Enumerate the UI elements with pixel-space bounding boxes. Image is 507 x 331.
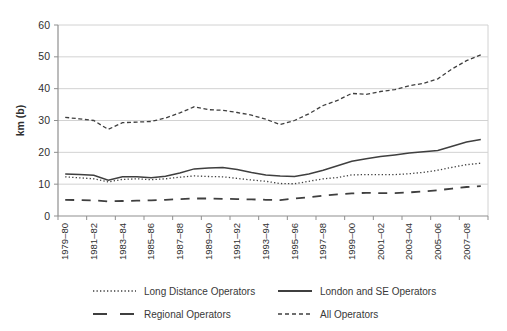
x-tick-label: 2003–04 <box>403 223 414 260</box>
x-tick-label: 1981–82 <box>88 223 99 260</box>
x-tick-label: 1985–86 <box>145 223 156 260</box>
legend-label-long-distance-operators: Long Distance Operators <box>144 286 255 297</box>
series-line-all-operators <box>65 55 481 129</box>
legend-marker-dotted-line-icon <box>92 287 137 295</box>
plot-svg: 01020304050601979–801981–821983–841985–8… <box>0 0 507 280</box>
y-tick-label: 50 <box>38 50 50 62</box>
x-tick-label: 1997–98 <box>317 223 328 260</box>
y-tick-label: 60 <box>38 19 50 31</box>
x-tick-label: 1993–94 <box>260 223 271 260</box>
legend-marker-long-dash-line-icon <box>92 310 137 318</box>
chart-legend: Long Distance OperatorsLondon and SE Ope… <box>0 280 507 330</box>
legend-row: Long Distance OperatorsLondon and SE Ope… <box>0 284 507 298</box>
legend-item-regional-operators: Regional Operators <box>92 307 231 321</box>
legend-row: Regional OperatorsAll Operators <box>0 307 507 321</box>
series-line-london-and-se-operators <box>65 140 481 181</box>
passenger-km-line-chart: 01020304050601979–801981–821983–841985–8… <box>0 0 507 331</box>
x-tick-label: 1987–88 <box>174 223 185 260</box>
y-tick-label: 30 <box>38 114 50 126</box>
x-tick-label: 1979–80 <box>59 223 70 260</box>
legend-label-london-and-se-operators: London and SE Operators <box>320 286 436 297</box>
y-axis-title: km (b) <box>14 105 26 137</box>
x-tick-label: 2001–02 <box>375 223 386 260</box>
legend-item-london-and-se-operators: London and SE Operators <box>277 284 436 298</box>
y-tick-label: 40 <box>38 82 50 94</box>
series-line-long-distance-operators <box>65 163 481 184</box>
x-tick-label: 1991–92 <box>231 223 242 260</box>
x-tick-label: 1999–00 <box>346 223 357 260</box>
legend-marker-solid-line-icon <box>277 287 313 295</box>
x-tick-label: 2007–08 <box>461 223 472 260</box>
legend-marker-short-dash-line-icon <box>277 310 313 318</box>
legend-item-long-distance-operators: Long Distance Operators <box>92 284 255 298</box>
series-line-regional-operators <box>65 186 481 201</box>
y-tick-label: 0 <box>44 210 50 222</box>
y-tick-label: 10 <box>38 178 50 190</box>
x-tick-label: 1989–90 <box>203 223 214 260</box>
x-tick-label: 2005–06 <box>432 223 443 260</box>
x-tick-label: 1995–96 <box>289 223 300 260</box>
x-tick-label: 1983–84 <box>117 223 128 260</box>
legend-label-all-operators: All Operators <box>320 309 378 320</box>
y-tick-label: 20 <box>38 146 50 158</box>
legend-item-all-operators: All Operators <box>277 307 378 321</box>
legend-label-regional-operators: Regional Operators <box>144 309 231 320</box>
